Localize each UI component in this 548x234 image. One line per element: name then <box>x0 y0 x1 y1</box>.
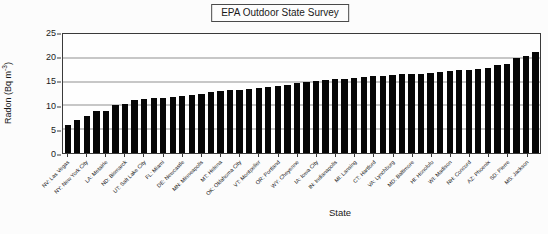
bar-slot <box>493 34 503 153</box>
x-tick-mark <box>163 154 164 157</box>
bar-slot <box>263 34 273 153</box>
y-tick-label: 25 <box>28 29 56 38</box>
x-tick-mark <box>67 154 68 157</box>
bar-slot <box>502 34 512 153</box>
bar-slot <box>235 34 245 153</box>
bar <box>408 74 414 153</box>
y-tick-mark <box>57 82 61 83</box>
bar <box>418 74 424 153</box>
bar <box>380 76 386 153</box>
bar <box>494 65 500 153</box>
bar <box>208 92 214 153</box>
bar <box>112 105 118 153</box>
bar <box>504 64 510 153</box>
bar <box>294 83 300 153</box>
bar-slot <box>254 34 264 153</box>
x-axis-label: State <box>290 207 390 218</box>
radon-bar-chart-figure: EPA Outdoor State Survey Radon (Bq m-3) … <box>0 0 548 234</box>
x-tick-mark <box>86 154 87 157</box>
bar <box>322 80 328 153</box>
bar-slot <box>92 34 102 153</box>
bar-slot <box>197 34 207 153</box>
bar-slot <box>130 34 140 153</box>
bar <box>370 76 376 153</box>
bar-slot <box>139 34 149 153</box>
bar-slot <box>321 34 331 153</box>
bar-slot <box>311 34 321 153</box>
y-tick-labels: 0510152025 <box>28 33 56 154</box>
bar <box>275 86 281 153</box>
bar-slot <box>359 34 369 153</box>
bar <box>399 74 405 153</box>
bar <box>303 82 309 153</box>
bar-slot <box>82 34 92 153</box>
x-tick-mark <box>258 154 259 157</box>
bar <box>256 88 262 153</box>
x-tick-mark <box>297 154 298 157</box>
bar-slot <box>340 34 350 153</box>
bar <box>437 72 443 153</box>
bar-slot <box>283 34 293 153</box>
bar-slot <box>216 34 226 153</box>
x-tick-mark <box>124 154 125 157</box>
bar <box>485 68 491 153</box>
bar-slot <box>378 34 388 153</box>
x-tick-mark <box>201 154 202 157</box>
x-tick-mark <box>354 154 355 157</box>
x-tick-marks <box>62 154 541 158</box>
bar-slot <box>407 34 417 153</box>
bar-slot <box>521 34 531 153</box>
x-tick-mark <box>316 154 317 157</box>
bar <box>447 71 453 153</box>
x-tick-mark <box>527 154 528 157</box>
bar <box>103 111 109 153</box>
bar <box>361 77 367 153</box>
bar-slot <box>302 34 312 153</box>
bar-slot <box>445 34 455 153</box>
bar-slot <box>454 34 464 153</box>
bar <box>265 87 271 153</box>
x-tick-mark <box>450 154 451 157</box>
bar <box>427 73 433 153</box>
x-tick-label: NY: New York City <box>53 159 89 195</box>
bar <box>189 95 195 153</box>
x-tick-mark <box>182 154 183 157</box>
x-tick-mark <box>431 154 432 157</box>
bar <box>74 120 80 153</box>
x-tick-mark <box>220 154 221 157</box>
bar-slot <box>330 34 340 153</box>
bar <box>284 85 290 153</box>
bar-slot <box>292 34 302 153</box>
bar-slot <box>388 34 398 153</box>
bar <box>332 79 338 153</box>
y-axis-label-text: Radon (Bq m <box>3 71 13 124</box>
bar <box>466 70 472 153</box>
bar <box>341 79 347 153</box>
bar <box>65 125 71 153</box>
bar-slot <box>349 34 359 153</box>
bar <box>141 99 147 153</box>
y-tick-label: 20 <box>28 53 56 62</box>
y-tick-label: 5 <box>28 125 56 134</box>
bar-slot <box>168 34 178 153</box>
bar-slot <box>63 34 73 153</box>
bar-slot <box>512 34 522 153</box>
chart-title: EPA Outdoor State Survey <box>211 4 349 22</box>
y-axis-label-suffix: ) <box>3 62 13 65</box>
bar-slot <box>149 34 159 153</box>
bar-slot <box>397 34 407 153</box>
y-tick-mark <box>57 155 61 156</box>
bar <box>389 75 395 153</box>
bar <box>313 81 319 153</box>
bar <box>93 111 99 153</box>
y-tick-mark <box>57 106 61 107</box>
x-tick-mark <box>105 154 106 157</box>
bar-slot <box>369 34 379 153</box>
bar <box>523 56 529 153</box>
y-axis-label: Radon (Bq m-3) <box>1 38 15 148</box>
x-tick-mark <box>239 154 240 157</box>
bar <box>246 89 252 153</box>
y-tick-mark <box>57 130 61 131</box>
bar <box>456 70 462 153</box>
bar <box>475 69 481 153</box>
